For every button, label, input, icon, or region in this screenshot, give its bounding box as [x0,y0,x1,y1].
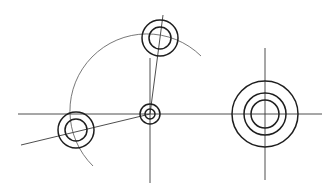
left-hole-ring-1 [58,112,94,148]
center-lines [18,15,322,183]
diagram-canvas [0,0,335,193]
radial-line-left [21,114,150,145]
circular-features [58,20,298,148]
left-hole [58,112,94,148]
pitch-arc [70,34,201,166]
